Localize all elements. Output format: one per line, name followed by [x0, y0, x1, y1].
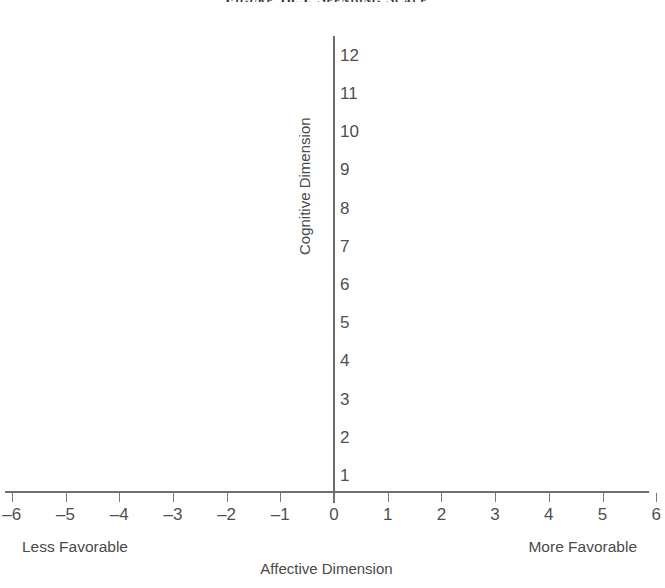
y-axis-tick-label: 7 [340, 237, 370, 257]
y-axis-tick-label: 12 [340, 46, 370, 66]
y-axis-tick-label: 10 [340, 122, 370, 142]
x-axis-tick [388, 493, 389, 502]
x-axis-tick-label: 5 [583, 505, 623, 525]
x-axis-tick [66, 493, 67, 502]
x-axis-tick [603, 493, 604, 502]
left-anchor-label: Less Favorable [22, 538, 128, 556]
x-axis-tick-label: 2 [421, 505, 461, 525]
x-axis-tick-label: –5 [46, 505, 86, 525]
x-axis-tick [280, 493, 281, 502]
x-axis-tick-label: 4 [529, 505, 569, 525]
y-axis-tick-label: 2 [340, 428, 370, 448]
y-axis-tick-label: 11 [340, 84, 370, 104]
x-axis-tick-label: 6 [636, 505, 665, 525]
right-anchor-label: More Favorable [528, 538, 637, 556]
x-axis-tick [656, 493, 657, 502]
y-axis-tick-label: 8 [340, 199, 370, 219]
x-axis-tick-label: 0 [314, 505, 354, 525]
x-axis-tick [549, 493, 550, 502]
x-axis-tick [334, 493, 335, 502]
x-axis-tick-label: 3 [475, 505, 515, 525]
y-axis-tick-label: 5 [340, 313, 370, 333]
x-axis-tick [495, 493, 496, 502]
x-axis-tick [441, 493, 442, 502]
x-axis-tick-label: –2 [207, 505, 247, 525]
x-axis-line [5, 491, 649, 493]
x-axis-tick [119, 493, 120, 502]
x-axis-tick [227, 493, 228, 502]
y-axis-title: Cognitive Dimension [296, 117, 313, 255]
y-axis-tick-label: 3 [340, 390, 370, 410]
x-axis-tick-label: –4 [99, 505, 139, 525]
x-axis-tick [12, 493, 13, 502]
x-axis-tick [173, 493, 174, 502]
y-axis-tick-label: 1 [340, 466, 370, 486]
x-axis-tick-label: 1 [368, 505, 408, 525]
y-axis-tick-label: 9 [340, 160, 370, 180]
x-axis-title: Affective Dimension [0, 560, 653, 577]
y-axis-tick-label: 4 [340, 351, 370, 371]
x-axis-tick-label: –3 [153, 505, 193, 525]
y-axis-line [333, 36, 335, 503]
x-axis-tick-label: –6 [0, 505, 32, 525]
x-axis-tick-label: –1 [260, 505, 300, 525]
y-axis-tick-label: 6 [340, 275, 370, 295]
